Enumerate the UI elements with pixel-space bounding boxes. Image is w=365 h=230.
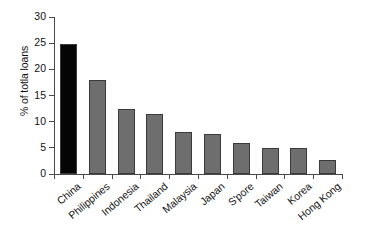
bar — [89, 80, 106, 174]
x-tick-mark — [54, 175, 55, 179]
y-tick-label: 25 — [20, 36, 46, 48]
y-tick-label: 15 — [20, 89, 46, 101]
y-tick-label: 0 — [20, 167, 46, 179]
y-tick-label: 30 — [20, 10, 46, 22]
y-tick-label: 20 — [20, 62, 46, 74]
plot-area — [54, 17, 342, 174]
bar-chart: % of totla loans 051015202530 ChinaPhili… — [0, 0, 365, 230]
bar — [60, 44, 77, 174]
y-tick-label: 5 — [20, 141, 46, 153]
y-tick-label: 10 — [20, 115, 46, 127]
